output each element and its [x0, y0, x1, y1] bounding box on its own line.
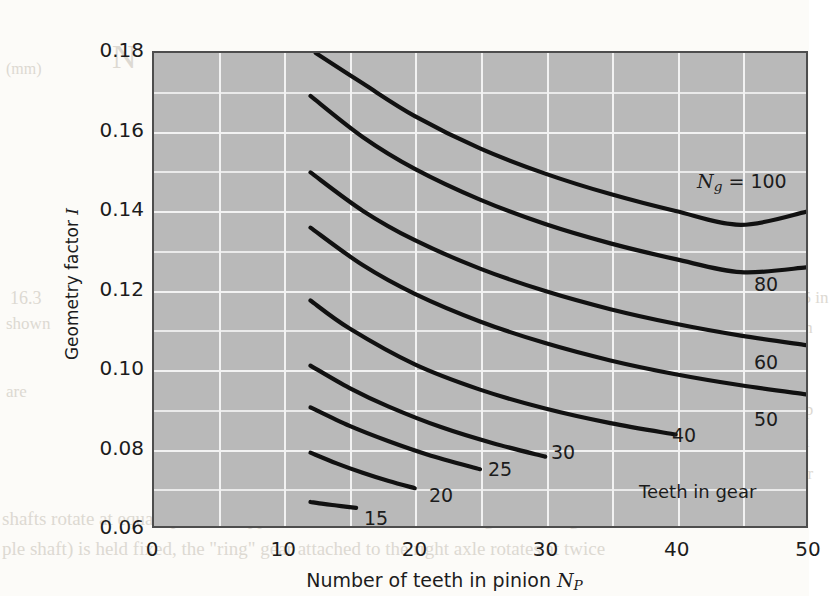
- x-axis-title-subscript: P: [574, 577, 583, 593]
- plot-area: Ng = 100 Teeth in gear 1520253040506080: [152, 51, 808, 528]
- x-tick-label: 40: [647, 537, 707, 561]
- x-axis-title-symbol: N: [557, 569, 574, 591]
- x-tick-label: 20: [384, 537, 444, 561]
- x-tick-label: 50: [778, 537, 833, 561]
- y-tick-label: 0.06: [99, 515, 144, 539]
- x-tick-label: 10: [253, 537, 313, 561]
- curve-label-80: 80: [754, 273, 778, 295]
- curve-label-40: 40: [672, 424, 696, 446]
- plot-annotations: Ng = 100 Teeth in gear 1520253040506080: [154, 53, 806, 526]
- curve-label-25: 25: [488, 458, 512, 480]
- y-tick-label: 0.18: [99, 38, 144, 62]
- curve-label-ng-100: Ng = 100: [697, 170, 787, 194]
- teeth-in-gear-annotation: Teeth in gear: [639, 481, 756, 502]
- y-tick-label: 0.08: [99, 436, 144, 460]
- x-tick-label: 30: [516, 537, 576, 561]
- y-tick-label: 0.14: [99, 197, 144, 221]
- y-tick-label: 0.12: [99, 277, 144, 301]
- y-tick-label: 0.10: [99, 356, 144, 380]
- curve-label-60: 60: [754, 351, 778, 373]
- y-axis-title: Geometry factor I: [62, 164, 82, 404]
- x-axis-title: Number of teeth in pinion NP: [40, 569, 833, 593]
- curve-label-20: 20: [429, 484, 453, 506]
- y-axis-title-text: Geometry factor: [62, 215, 82, 360]
- head-label-symbol: N: [697, 170, 714, 192]
- curve-label-50: 50: [754, 408, 778, 430]
- y-tick-label: 0.16: [99, 118, 144, 142]
- y-axis-title-symbol: I: [62, 208, 82, 215]
- head-label-equals: = 100: [722, 170, 786, 192]
- x-axis-title-text: Number of teeth in pinion: [306, 569, 557, 591]
- geometry-factor-chart: 0.060.080.100.120.140.160.18 01020304050…: [40, 16, 833, 596]
- curve-label-30: 30: [551, 441, 575, 463]
- x-tick-label: 0: [122, 537, 182, 561]
- curve-label-15: 15: [364, 507, 388, 528]
